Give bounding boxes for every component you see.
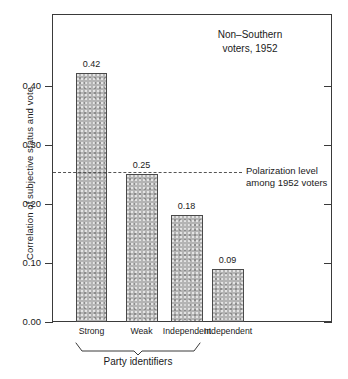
bar-independent: [212, 269, 244, 322]
polarization-annotation-line1: Polarization level: [246, 165, 327, 177]
y-tick-mark-0.10: [45, 263, 53, 264]
y-tick-mark-right-0.40: [324, 86, 332, 87]
polarization-threshold-line: [53, 172, 242, 173]
polarization-annotation: Polarization level among 1952 voters: [246, 165, 327, 189]
y-tick-mark-0.30: [45, 145, 53, 146]
y-tick-mark-0.20: [45, 204, 53, 205]
y-tick-mark-0.40: [45, 86, 53, 87]
y-tick-mark-right-0.10: [324, 263, 332, 264]
y-tick-mark-right-0.20: [324, 204, 332, 205]
y-tick-mark-0.00: [45, 322, 53, 323]
y-tick-label-0.20: 0.20: [23, 199, 42, 209]
y-tick-label-0.40: 0.40: [23, 81, 42, 91]
bar-value-independent-leaning: 0.18: [161, 202, 212, 211]
y-tick-label-0.10: 0.10: [23, 258, 42, 268]
bar-value-weak: 0.25: [116, 161, 167, 170]
y-tick-label-0.00: 0.00: [23, 317, 42, 327]
y-tick-mark-right-0.30: [324, 145, 332, 146]
party-identifiers-brace: [74, 342, 202, 356]
y-tick-label-0.30: 0.30: [23, 140, 42, 150]
x-category-label-strong: Strong: [66, 326, 117, 336]
chart-title: Non–Southern voters, 1952: [175, 28, 325, 55]
y-tick-mark-right-0.00: [324, 322, 332, 323]
party-identifiers-label: Party identifiers: [74, 356, 202, 368]
bar-weak: [126, 174, 158, 322]
x-category-label-independent: Independent: [196, 326, 260, 336]
bar-value-strong: 0.42: [66, 60, 117, 69]
bar-chart-figure: Correlation of subjective status and vot…: [0, 0, 348, 379]
bar-value-independent: 0.09: [202, 256, 253, 265]
bar-independent-leaning: [171, 215, 203, 322]
chart-title-line1: Non–Southern: [175, 28, 325, 42]
bar-strong: [76, 73, 107, 322]
polarization-annotation-line2: among 1952 voters: [246, 177, 327, 189]
chart-title-line2: voters, 1952: [175, 42, 325, 56]
